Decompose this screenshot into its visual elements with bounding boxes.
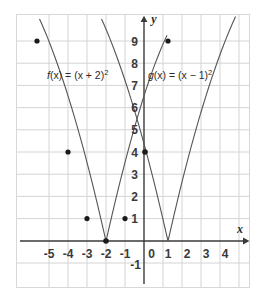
ytick-2: 2: [131, 190, 138, 204]
xtick-3: 3: [203, 247, 210, 261]
ytick-3: 3: [131, 168, 138, 182]
point-f-neg2-0: [103, 238, 109, 244]
ytick-5: 5: [131, 123, 138, 137]
g-curve: [102, 17, 236, 242]
g-body-text: = (x − 1): [166, 69, 208, 81]
point-f-0-4: [142, 149, 148, 155]
point-f-neg1-1: [122, 216, 127, 221]
graph-canvas: -5 -4 -3 -2 -1 0 1 2 3 4 9 8 7 6 5 4 3 2…: [0, 0, 263, 305]
x-axis-arrow: [243, 238, 250, 245]
point-f-neg3-1: [84, 216, 89, 221]
f-function-annotation: f(x) = (x + 2)2: [47, 68, 108, 81]
ytick-6: 6: [131, 101, 138, 115]
f-exponent-text: 2: [104, 68, 108, 77]
xtick--2: -2: [101, 247, 112, 261]
y-axis-label: y: [149, 12, 157, 26]
ytick-7: 7: [131, 79, 138, 93]
f-arg-text: (x): [50, 69, 62, 81]
f-body-text: = (x + 2): [62, 69, 104, 81]
point-f-neg5-9: [34, 38, 39, 43]
point-f-neg4-4: [65, 149, 70, 154]
parabola-graph-figure: -5 -4 -3 -2 -1 0 1 2 3 4 9 8 7 6 5 4 3 2…: [0, 0, 263, 305]
y-axis-tick-labels: 9 8 7 6 5 4 3 2 1 -1: [130, 35, 141, 272]
g-arg-text: (x): [154, 69, 166, 81]
g-data-points: [165, 38, 170, 43]
g-exponent-text: 2: [208, 68, 212, 77]
xtick--1: -1: [120, 247, 131, 261]
svg-text:g(x) = (x − 1)2: g(x) = (x − 1)2: [148, 68, 212, 81]
xtick--5: -5: [44, 247, 55, 261]
g-function-annotation: g(x) = (x − 1)2: [148, 68, 212, 81]
y-axis-arrow: [141, 16, 148, 22]
svg-text:f(x) = (x + 2)2: f(x) = (x + 2)2: [47, 68, 108, 81]
ytick-8: 8: [131, 57, 138, 71]
xtick-2: 2: [184, 247, 191, 261]
xtick-4: 4: [222, 247, 229, 261]
point-g-1-9: [165, 38, 170, 43]
xtick--4: -4: [63, 247, 74, 261]
ytick--1: -1: [130, 258, 141, 272]
ytick-9: 9: [131, 35, 138, 49]
xtick-0: 0: [148, 247, 155, 261]
xtick-1: 1: [165, 247, 172, 261]
xtick--3: -3: [82, 247, 93, 261]
ytick-1: 1: [131, 212, 138, 226]
ytick-4: 4: [131, 146, 138, 160]
x-axis-label: x: [236, 222, 243, 236]
